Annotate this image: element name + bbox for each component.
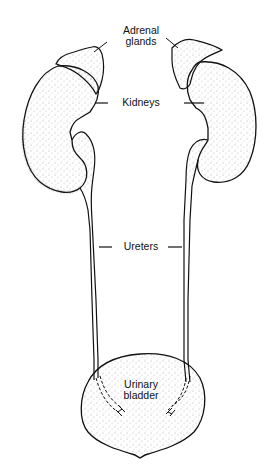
label-kidneys: Kidneys [116, 97, 166, 108]
label-adrenal-line2: glands [118, 36, 164, 47]
diagram-drawing [0, 0, 279, 472]
label-urinary-bladder: Urinary bladder [118, 379, 164, 401]
urinary-system-diagram: Adrenal glands Kidneys Ureters Urinary b… [0, 0, 279, 472]
label-bladder-line2: bladder [118, 390, 164, 401]
label-adrenal-glands: Adrenal glands [118, 25, 164, 47]
urinary-bladder [81, 354, 205, 458]
label-ureters: Ureters [118, 241, 164, 252]
